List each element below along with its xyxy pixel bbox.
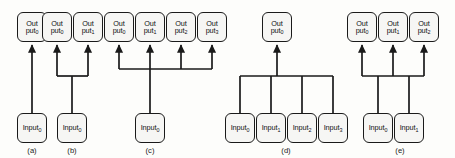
output-node-d-0[interactable]: Output0 bbox=[262, 12, 292, 42]
output-label: Output1 bbox=[387, 20, 400, 35]
output-node-c-1[interactable]: Output1 bbox=[135, 12, 165, 42]
input-node-e-1[interactable]: Input1 bbox=[394, 113, 424, 143]
input-node-c-0[interactable]: Input0 bbox=[135, 113, 165, 143]
input-label: Input2 bbox=[293, 124, 312, 132]
input-node-d-1[interactable]: Input1 bbox=[256, 113, 286, 143]
output-label: Output0 bbox=[26, 20, 39, 35]
output-label: Output0 bbox=[51, 20, 64, 35]
input-label: Input0 bbox=[63, 124, 82, 132]
subfigure-caption-b: (b) bbox=[52, 146, 92, 155]
output-label: Output2 bbox=[175, 20, 188, 35]
output-node-c-3[interactable]: Output3 bbox=[197, 12, 227, 42]
output-node-e-0[interactable]: Output0 bbox=[347, 12, 377, 42]
output-label: Output1 bbox=[82, 20, 95, 35]
input-node-d-2[interactable]: Input2 bbox=[287, 113, 317, 143]
output-label: Output0 bbox=[271, 20, 284, 35]
output-label: Output2 bbox=[418, 20, 431, 35]
subfigure-caption-a: (a) bbox=[12, 146, 52, 155]
subfigure-caption-e: (e) bbox=[380, 146, 420, 155]
input-node-d-3[interactable]: Input3 bbox=[318, 113, 348, 143]
output-node-c-0[interactable]: Output0 bbox=[104, 12, 134, 42]
output-node-b-1[interactable]: Output1 bbox=[73, 12, 103, 42]
input-label: Input0 bbox=[369, 124, 388, 132]
input-label: Input0 bbox=[231, 124, 250, 132]
subfigure-caption-c: (c) bbox=[130, 146, 170, 155]
output-label: Output0 bbox=[356, 20, 369, 35]
input-label: Input0 bbox=[23, 124, 42, 132]
input-label: Input1 bbox=[400, 124, 419, 132]
output-node-e-1[interactable]: Output1 bbox=[378, 12, 408, 42]
input-node-e-0[interactable]: Input0 bbox=[363, 113, 393, 143]
output-node-c-2[interactable]: Output2 bbox=[166, 12, 196, 42]
output-label: Output1 bbox=[144, 20, 157, 35]
input-label: Input3 bbox=[324, 124, 343, 132]
subfigure-caption-d: (d) bbox=[266, 146, 306, 155]
input-label: Input1 bbox=[262, 124, 281, 132]
figure-canvas: Output0Input0(a)Output0Output1Input0(b)O… bbox=[0, 0, 455, 158]
output-node-e-2[interactable]: Output2 bbox=[409, 12, 439, 42]
output-label: Output3 bbox=[206, 20, 219, 35]
input-label: Input0 bbox=[141, 124, 160, 132]
output-label: Output0 bbox=[113, 20, 126, 35]
input-node-a-0[interactable]: Input0 bbox=[17, 113, 47, 143]
input-node-b-0[interactable]: Input0 bbox=[57, 113, 87, 143]
output-node-b-0[interactable]: Output0 bbox=[42, 12, 72, 42]
input-node-d-0[interactable]: Input0 bbox=[225, 113, 255, 143]
